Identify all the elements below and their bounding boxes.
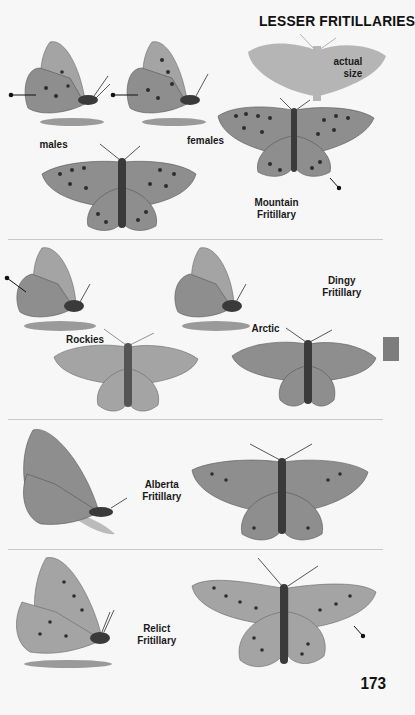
- female-pointer-icon: [110, 92, 140, 98]
- dingy-arctic-side-view-butterfly-icon: [170, 244, 250, 332]
- section-divider: [8, 239, 383, 240]
- mountain-fritillary-label: Mountain Fritillary: [254, 196, 298, 220]
- mountain-fritillary-upperside-female-icon: [216, 96, 376, 181]
- relict-pointer-icon: [352, 624, 366, 640]
- page-number: 173: [360, 674, 386, 694]
- female-side-view-butterfly-icon: [112, 38, 207, 128]
- mountain-fritillary-upperside-male-icon: [40, 140, 198, 232]
- mountain-fritillary-pointer-icon: [328, 176, 342, 192]
- alberta-fritillary-label: Alberta Fritillary: [142, 478, 181, 502]
- alberta-upperside-butterfly-icon: [190, 444, 370, 546]
- dingy-arctic-upperside-butterfly-icon: [230, 322, 378, 412]
- page-title: LESSER FRITILLARIES: [259, 12, 415, 29]
- dingy-rockies-pointer-icon: [4, 275, 28, 295]
- relict-fritillary-label: Relict Fritillary: [137, 622, 176, 646]
- dingy-rockies-upperside-butterfly-icon: [52, 325, 200, 415]
- section-divider: [8, 419, 383, 420]
- male-pointer-icon: [8, 92, 38, 98]
- dingy-fritillary-label: Dingy Fritillary: [322, 274, 361, 298]
- actual-size-label: actual size: [334, 55, 363, 79]
- relict-upperside-butterfly-icon: [190, 556, 380, 674]
- section-divider: [8, 549, 383, 550]
- relict-side-view-butterfly-icon: [10, 552, 120, 670]
- male-side-view-butterfly-icon: [10, 38, 105, 128]
- section-thumb-tab: [383, 337, 399, 361]
- alberta-side-view-butterfly-icon: [15, 424, 130, 536]
